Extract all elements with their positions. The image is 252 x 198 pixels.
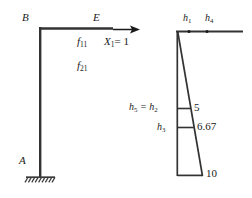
h2-subscript: 2 [154,106,157,113]
joint-label-b: B [22,12,29,23]
f11-subscript: 11 [80,40,87,49]
left-label-h3: h3 [157,122,165,132]
moment-diagram-group [176,30,243,176]
h1-subscript: 1 [188,17,191,24]
x1-symbol: X [104,35,111,47]
x1-value: = 1 [114,35,128,47]
segment-label-h4: h4 [205,13,213,23]
left-label-h5-h2: h5 = h2 [129,102,158,112]
fixed-support-a [25,177,55,182]
joint-label-e: E [93,12,100,23]
flexibility-coefficient-f21: f21 [77,60,88,71]
joint-label-a: A [19,155,26,166]
ordinate-value-10: 10 [206,168,217,179]
h5-subscript: 5 [134,106,137,113]
equals-h2: = h [137,101,154,112]
unit-load-label: X1= 1 [104,36,129,47]
x1-subscript: 1 [111,40,115,49]
frame-group [25,26,140,183]
h3-subscript: 3 [162,126,165,133]
unit-load-arrow [113,26,140,34]
h4-subscript: 4 [210,17,213,24]
structural-diagram-figure: B E A f11 f21 X1= 1 h1 h4 h5 = h2 h3 5 6… [0,0,252,198]
f21-subscript: 21 [80,64,87,73]
tick-h4 [206,30,209,33]
segment-label-h1: h1 [183,13,191,23]
ordinate-value-667: 6.67 [197,121,216,132]
flexibility-coefficient-f11: f11 [77,36,87,47]
tick-h1 [188,30,191,33]
ordinate-value-5: 5 [194,102,200,113]
